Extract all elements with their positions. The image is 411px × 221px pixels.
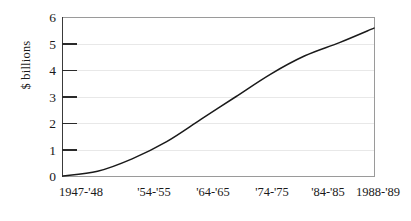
x-tick-label-1988-89: 1988-'89 (338, 184, 411, 200)
x-tick-label-1947-48: 1947-'48 (41, 184, 121, 200)
line-chart-figure: $ billions 6 5 4 3 2 1 0 (0, 0, 411, 221)
x-axis-tick-labels: 1947-'48 '54-'55 '64-'65 '74-'75 '84-'85… (0, 184, 411, 204)
gridlines (62, 44, 375, 150)
data-series-line (63, 28, 374, 176)
y-axis-ticks (62, 44, 77, 150)
